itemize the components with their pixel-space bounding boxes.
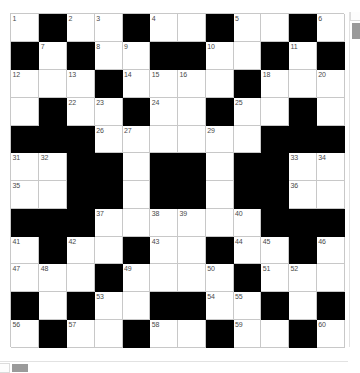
letter-cell[interactable] [122,153,150,181]
letter-cell[interactable]: 48 [39,264,67,292]
letter-cell[interactable]: 58 [150,319,178,347]
letter-cell[interactable] [205,70,233,98]
letter-cell[interactable]: 8 [94,42,122,70]
letter-cell[interactable]: 23 [94,97,122,125]
letter-cell[interactable]: 57 [67,319,95,347]
letter-cell[interactable]: 34 [316,153,344,181]
letter-cell[interactable] [150,125,178,153]
letter-cell[interactable]: 38 [150,208,178,236]
letter-cell[interactable]: 45 [261,236,289,264]
letter-cell[interactable]: 42 [67,236,95,264]
letter-cell[interactable] [205,208,233,236]
letter-cell[interactable]: 39 [178,208,206,236]
letter-cell[interactable]: 32 [39,153,67,181]
letter-cell[interactable]: 1 [11,14,39,42]
letter-cell[interactable] [178,97,206,125]
letter-cell[interactable]: 47 [11,264,39,292]
letter-cell[interactable]: 16 [178,70,206,98]
letter-cell[interactable] [122,292,150,320]
letter-cell[interactable]: 29 [205,125,233,153]
letter-cell[interactable]: 60 [316,319,344,347]
letter-cell[interactable]: 24 [150,97,178,125]
letter-cell[interactable]: 50 [205,264,233,292]
letter-cell[interactable] [316,264,344,292]
letter-cell[interactable]: 5 [233,14,261,42]
letter-cell[interactable]: 13 [67,70,95,98]
letter-cell[interactable]: 40 [233,208,261,236]
crossword-row: 414243444546 [11,236,344,264]
letter-cell[interactable]: 14 [122,70,150,98]
letter-cell[interactable] [178,236,206,264]
letter-cell[interactable]: 15 [150,70,178,98]
letter-cell[interactable]: 56 [11,319,39,347]
letter-cell[interactable] [178,125,206,153]
letter-cell[interactable] [39,70,67,98]
letter-cell[interactable] [289,292,317,320]
crossword-grid-container[interactable]: 1234567891011121314151618202223242526272… [10,13,344,347]
letter-cell[interactable]: 4 [150,14,178,42]
letter-cell[interactable]: 52 [289,264,317,292]
letter-cell[interactable] [205,181,233,209]
letter-cell[interactable]: 35 [11,181,39,209]
letter-cell[interactable]: 33 [289,153,317,181]
letter-cell[interactable]: 3 [94,14,122,42]
letter-cell[interactable]: 22 [67,97,95,125]
letter-cell[interactable]: 10 [205,42,233,70]
letter-cell[interactable] [261,97,289,125]
letter-cell[interactable]: 46 [316,236,344,264]
horizontal-scrollbar[interactable] [0,361,348,373]
letter-cell[interactable]: 53 [94,292,122,320]
vertical-scrollbar-thumb[interactable] [352,23,360,39]
clue-number: 18 [263,70,270,79]
letter-cell[interactable] [233,125,261,153]
letter-cell[interactable]: 2 [67,14,95,42]
letter-cell[interactable]: 25 [233,97,261,125]
letter-cell[interactable]: 59 [233,319,261,347]
letter-cell[interactable] [39,292,67,320]
letter-cell[interactable] [94,319,122,347]
letter-cell[interactable] [67,264,95,292]
letter-cell[interactable] [94,236,122,264]
letter-cell[interactable] [11,97,39,125]
letter-cell[interactable] [122,208,150,236]
letter-cell[interactable] [205,153,233,181]
letter-cell[interactable]: 27 [122,125,150,153]
letter-cell[interactable]: 49 [122,264,150,292]
letter-cell[interactable] [39,181,67,209]
letter-cell[interactable] [178,264,206,292]
letter-cell[interactable]: 26 [94,125,122,153]
block-cell [261,181,289,209]
clue-number: 12 [13,70,20,79]
letter-cell[interactable]: 20 [316,70,344,98]
letter-cell[interactable]: 51 [261,264,289,292]
letter-cell[interactable]: 12 [11,70,39,98]
block-cell [289,97,317,125]
letter-cell[interactable]: 9 [122,42,150,70]
letter-cell[interactable] [261,14,289,42]
letter-cell[interactable] [316,97,344,125]
letter-cell[interactable] [233,42,261,70]
letter-cell[interactable] [150,264,178,292]
letter-cell[interactable] [261,319,289,347]
letter-cell[interactable]: 31 [11,153,39,181]
letter-cell[interactable] [316,181,344,209]
letter-cell[interactable]: 37 [94,208,122,236]
letter-cell[interactable] [289,70,317,98]
letter-cell[interactable]: 6 [316,14,344,42]
letter-cell[interactable]: 11 [289,42,317,70]
letter-cell[interactable]: 55 [233,292,261,320]
letter-cell[interactable] [178,319,206,347]
letter-cell[interactable]: 36 [289,181,317,209]
crossword-grid[interactable]: 1234567891011121314151618202223242526272… [11,14,345,348]
letter-cell[interactable]: 7 [39,42,67,70]
horizontal-scrollbar-thumb[interactable] [12,364,28,372]
letter-cell[interactable]: 54 [205,292,233,320]
vertical-scrollbar[interactable] [349,12,360,347]
letter-cell[interactable] [178,14,206,42]
block-cell [39,97,67,125]
letter-cell[interactable]: 43 [150,236,178,264]
letter-cell[interactable]: 41 [11,236,39,264]
letter-cell[interactable]: 18 [261,70,289,98]
letter-cell[interactable] [122,181,150,209]
letter-cell[interactable]: 44 [233,236,261,264]
